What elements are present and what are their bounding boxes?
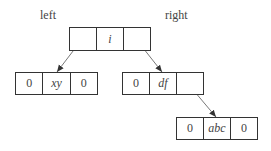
- root-left-pointer-cell: [70, 28, 96, 50]
- right-child-left-pointer-cell: 0: [123, 73, 149, 94]
- right-right-child-node: 0 abc 0: [176, 117, 258, 140]
- right-right-child-data-cell: abc: [203, 118, 230, 139]
- right-child-data-cell: df: [149, 73, 176, 94]
- root-right-pointer-cell: [123, 28, 150, 50]
- left-child-left-pointer-cell: 0: [16, 73, 42, 94]
- right-label: right: [165, 9, 188, 21]
- right-right-child-left-pointer-cell: 0: [177, 118, 203, 139]
- right-right-child-right-pointer-cell: 0: [230, 118, 257, 139]
- left-label: left: [40, 9, 56, 21]
- root-node: i: [69, 27, 151, 51]
- left-child-data-cell: xy: [42, 73, 69, 94]
- root-data-cell: i: [96, 28, 123, 50]
- left-child-node: 0 xy 0: [15, 72, 98, 95]
- right-child-node: 0 df: [122, 72, 204, 95]
- left-child-right-pointer-cell: 0: [70, 73, 97, 94]
- right-child-right-pointer-cell: [176, 73, 203, 94]
